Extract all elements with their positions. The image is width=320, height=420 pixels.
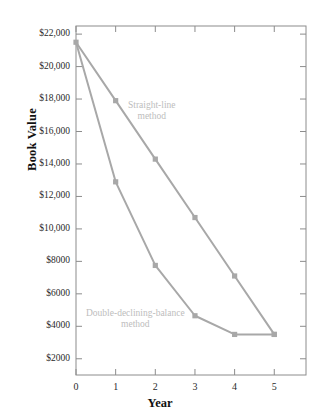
x-axis-title: Year: [0, 396, 320, 411]
series-annotation: Straight-linemethod: [128, 100, 176, 122]
data-point-marker-origin: [73, 40, 78, 45]
x-tick-label: 5: [262, 381, 286, 392]
data-point-marker: [113, 179, 118, 184]
x-tick-label: 4: [223, 381, 247, 392]
series-annotation-line: Double-declining-balance: [86, 308, 185, 319]
data-point-marker: [153, 157, 158, 162]
y-tick-label: $8000: [20, 255, 70, 265]
x-tick-label: 2: [143, 381, 167, 392]
data-point-marker: [232, 273, 237, 278]
x-tick-label: 0: [64, 381, 88, 392]
y-tick-label: $16,000: [20, 126, 70, 136]
y-tick-label: $12,000: [20, 190, 70, 200]
series-annotation-line: method: [86, 319, 185, 330]
y-tick-label: $18,000: [20, 93, 70, 103]
series-annotation-line: Straight-line: [128, 100, 176, 111]
data-point-marker: [153, 263, 158, 268]
y-tick-label: $20,000: [20, 61, 70, 71]
y-tick-label: $14,000: [20, 158, 70, 168]
x-tick-label: 1: [104, 381, 128, 392]
data-point-marker: [272, 332, 277, 337]
series-layer: [73, 40, 276, 337]
x-tick-label: 3: [183, 381, 207, 392]
y-tick-label: $22,000: [20, 28, 70, 38]
series-annotation: Double-declining-balancemethod: [86, 308, 185, 330]
y-tick-label: $2000: [20, 353, 70, 363]
y-tick-label: $4000: [20, 320, 70, 330]
series-annotation-line: method: [128, 111, 176, 122]
chart-figure: Book Value Year $2000$4000$6000$8000$10,…: [0, 0, 320, 420]
data-point-marker: [232, 332, 237, 337]
data-point-marker: [192, 313, 197, 318]
data-point-marker: [192, 215, 197, 220]
y-tick-label: $10,000: [20, 223, 70, 233]
y-tick-label: $6000: [20, 288, 70, 298]
data-point-marker: [113, 98, 118, 103]
